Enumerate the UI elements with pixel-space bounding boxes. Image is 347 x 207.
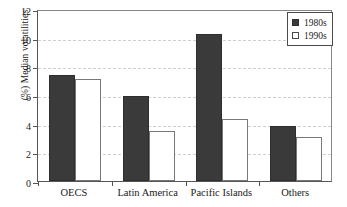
x-tick-1 [186,181,187,186]
legend-swatch-1990s [292,32,299,39]
y-tick-label-2: 2 [26,149,31,160]
y-tick-6 [33,97,38,98]
bar-chart: (%) Median volatilities 024681012 OECSLa… [0,0,347,207]
bar-others-1980s [270,126,296,181]
y-tick-2 [33,154,38,155]
bar-oecs-1990s [75,79,101,181]
bar-latin-america-1990s [149,131,175,181]
y-tick-label-6: 6 [26,92,31,103]
chart-legend: 1980s 1990s [287,12,333,46]
x-tick-2 [259,181,260,186]
x-tick-0 [112,181,113,186]
bar-others-1990s [296,137,322,181]
y-tick-4 [33,126,38,127]
y-tick-label-8: 8 [26,63,31,74]
legend-item-1990s: 1990s [292,29,327,42]
y-tick-8 [33,68,38,69]
y-tick-10 [33,40,38,41]
legend-item-1980s: 1980s [292,16,327,29]
legend-label-1990s: 1990s [304,31,327,41]
y-tick-label-0: 0 [26,178,31,189]
y-tick-label-12: 12 [21,6,31,17]
bar-pacific-islands-1990s [222,119,248,181]
bar-pacific-islands-1980s [196,34,222,181]
y-tick-label-10: 10 [21,34,31,45]
y-tick-12 [33,11,38,12]
bar-oecs-1980s [49,75,75,181]
x-tick-origin [38,181,39,186]
legend-label-1980s: 1980s [304,18,327,28]
x-label-pacific-islands: Pacific Islands [191,187,253,198]
x-label-others: Others [281,187,309,198]
y-tick-label-4: 4 [26,120,31,131]
legend-swatch-1980s [292,19,299,26]
x-label-latin-america: Latin America [117,187,177,198]
bar-latin-america-1980s [123,96,149,181]
gridline-y-8 [38,68,331,69]
x-label-oecs: OECS [60,187,87,198]
